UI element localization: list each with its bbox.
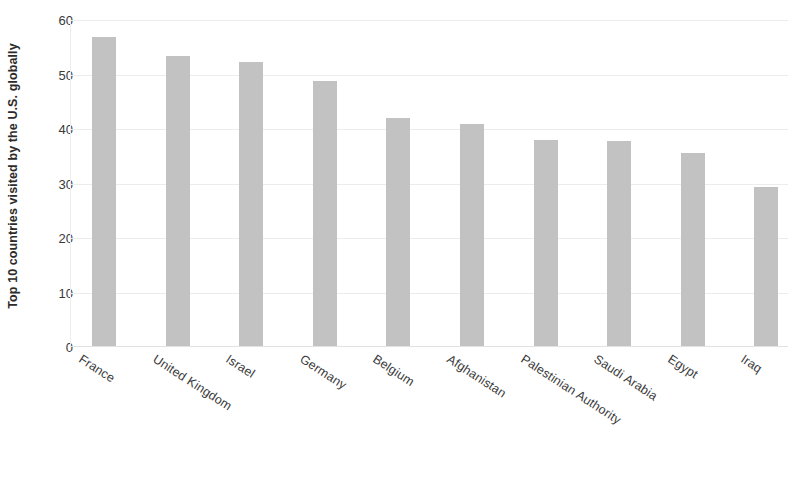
bar-chart: Top 10 countries visited by the U.S. glo… [0,0,799,480]
plot-area [70,20,788,347]
bar [313,81,337,348]
y-axis-tick-label: 40 [33,122,73,137]
x-axis-tick-label: Iraq [739,352,765,376]
y-axis-tick-label: 30 [33,176,73,191]
x-axis-line [70,346,788,347]
bar [681,153,705,347]
bar [607,141,631,347]
bar [460,124,484,347]
x-axis-tick-label: Germany [297,352,349,392]
bar [239,62,263,347]
x-axis-tick-label: Egypt [665,352,700,382]
bar [754,187,778,347]
bar [92,37,116,347]
y-axis-title: Top 10 countries visited by the U.S. glo… [2,0,24,352]
y-axis-tick-label: 50 [33,67,73,82]
x-axis-tick-label: France [76,352,117,385]
x-axis-tick-label: Israel [224,352,258,381]
y-axis-tick-label: 0 [33,340,73,355]
bar [534,140,558,347]
x-axis-tick-label: United Kingdom [150,352,234,413]
gridline [70,20,788,21]
y-axis-tick-label: 60 [33,13,73,28]
x-axis-tick-label: Saudi Arabia [592,352,661,403]
bar [166,56,190,347]
x-axis-tick-label: Belgium [371,352,417,389]
bar [386,118,410,347]
x-axis-tick-label: Afghanistan [444,352,508,401]
y-axis-tick-label: 20 [33,231,73,246]
y-axis-tick-label: 10 [33,285,73,300]
